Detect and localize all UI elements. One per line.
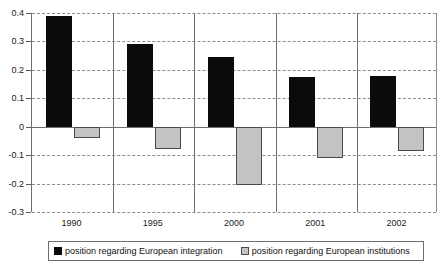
category-separator <box>113 13 114 212</box>
bar-2002-institutions <box>398 127 424 151</box>
legend-label-integration: position regarding European integration <box>65 246 223 256</box>
gray-square-icon <box>241 247 249 255</box>
y-axis-tick-label: -0.1 <box>0 150 24 160</box>
bar-1995-integration <box>127 44 153 126</box>
category-separator <box>357 13 358 212</box>
bar-2001-institutions <box>317 127 343 158</box>
gridline <box>32 41 436 42</box>
y-axis-tick-label: 0.2 <box>0 65 24 75</box>
gridline <box>32 13 436 14</box>
x-axis-label-2000: 2000 <box>224 218 244 228</box>
y-axis-tick-label: -0.2 <box>0 179 24 189</box>
bar-2001-integration <box>289 77 315 127</box>
black-square-icon <box>54 247 62 255</box>
category-separator <box>276 13 277 212</box>
x-axis-label-2002: 2002 <box>386 218 406 228</box>
gridline <box>32 184 436 185</box>
x-axis-label-2001: 2001 <box>305 218 325 228</box>
gridline <box>32 70 436 71</box>
gridline <box>32 212 436 213</box>
legend-item-institutions: position regarding European institutions <box>241 246 410 256</box>
chart-legend: position regarding European integration … <box>48 241 424 261</box>
y-axis-tick <box>26 212 31 213</box>
y-axis-tick-label: 0.4 <box>0 8 24 18</box>
y-axis-tick-label: -0.3 <box>0 207 24 217</box>
plot-area <box>31 13 437 212</box>
legend-item-integration: position regarding European integration <box>54 246 223 256</box>
bar-2000-integration <box>208 57 234 127</box>
y-axis-tick-label: 0.1 <box>0 93 24 103</box>
bar-chart: 0.40.30.20.10-0.1-0.2-0.3 19901995200020… <box>0 0 448 267</box>
y-axis-tick-label: 0 <box>0 122 24 132</box>
bar-2000-institutions <box>236 127 262 185</box>
x-axis-label-1995: 1995 <box>143 218 163 228</box>
gridline <box>32 155 436 156</box>
bar-1995-institutions <box>155 127 181 150</box>
legend-label-institutions: position regarding European institutions <box>252 246 410 256</box>
bar-2002-integration <box>370 76 396 127</box>
bar-1990-institutions <box>74 127 100 138</box>
bar-1990-integration <box>46 16 72 127</box>
category-separator <box>194 13 195 212</box>
x-axis-label-1990: 1990 <box>62 218 82 228</box>
y-axis-tick-label: 0.3 <box>0 36 24 46</box>
